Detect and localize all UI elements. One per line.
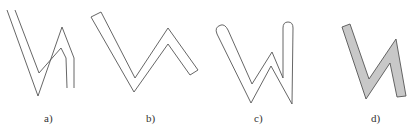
- panel-a-label: a): [44, 112, 53, 124]
- panel-d-shape: [342, 24, 406, 99]
- panel-a-inner-line: [15, 10, 67, 88]
- figure-canvas: [0, 0, 413, 133]
- panel-b-outline: [91, 12, 198, 92]
- panel-c-shape: [216, 22, 293, 104]
- panel-b-label: b): [146, 112, 155, 124]
- panel-c-outline: [216, 22, 293, 104]
- panel-d-label: d): [371, 112, 380, 124]
- panel-d-filled-band: [342, 24, 406, 99]
- panel-b-shape: [91, 12, 198, 92]
- panel-a-shape: [7, 10, 74, 96]
- panel-c-label: c): [254, 112, 263, 124]
